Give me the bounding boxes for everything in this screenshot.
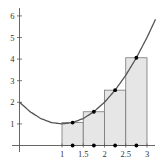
midpoint-dot-on-curve: [134, 56, 138, 60]
x-tick-label: 1: [60, 149, 64, 159]
y-tick-label: 5: [10, 33, 14, 43]
y-tick-label: 6: [10, 11, 14, 21]
y-tick-label: 4: [10, 54, 15, 64]
y-tick-label: 2: [10, 97, 14, 107]
midpoint-dot-on-curve: [71, 121, 75, 125]
midpoint-dot-on-axis: [134, 144, 138, 148]
riemann-rectangle: [62, 123, 83, 146]
midpoint-dot-on-axis: [92, 144, 96, 148]
y-tick-label: 3: [10, 76, 14, 86]
midpoint-dot-on-curve: [92, 110, 96, 114]
x-tick-label: 2: [102, 149, 106, 159]
riemann-sum-chart: 11.522.53123456: [0, 0, 163, 167]
y-tick-label: 1: [10, 119, 14, 129]
plot-area: 11.522.53123456: [0, 0, 163, 167]
midpoint-dot-on-curve: [113, 88, 117, 92]
midpoint-dot-on-axis: [113, 144, 117, 148]
x-tick-label: 1.5: [78, 149, 89, 159]
x-tick-label: 3: [145, 149, 149, 159]
x-tick-label: 2.5: [120, 149, 131, 159]
midpoint-dot-on-axis: [71, 144, 75, 148]
